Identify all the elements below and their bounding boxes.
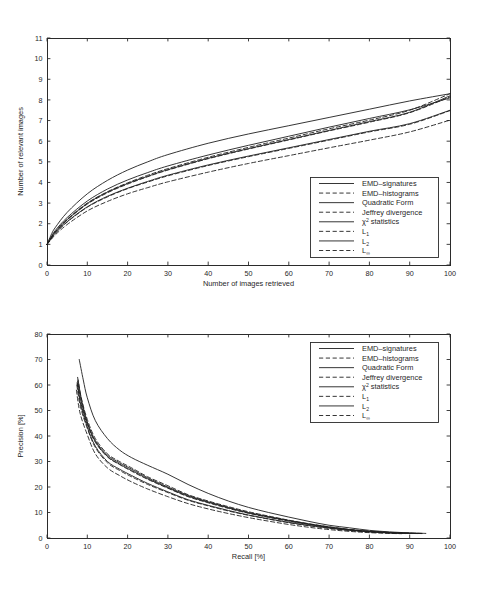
x-tick-label: 40 <box>204 542 212 551</box>
y-tick-label: 30 <box>35 457 43 466</box>
x-tick-label: 90 <box>406 542 414 551</box>
legend-label-1: EMD–signatures <box>362 179 417 188</box>
precision-recall-chart: 010203040506070809010001020304050607080R… <box>16 330 456 561</box>
y-tick-label: 8 <box>39 96 43 105</box>
charts-svg: 010203040506070809010001234567891011Numb… <box>0 0 481 591</box>
y-axis-title: Number of relevant images <box>16 107 25 196</box>
y-tick-label: 20 <box>35 483 43 492</box>
x-tick-label: 0 <box>45 269 49 278</box>
y-tick-label: 40 <box>35 432 43 441</box>
y-tick-label: 50 <box>35 406 43 415</box>
x-tick-label: 60 <box>285 269 293 278</box>
y-tick-label: 2 <box>39 219 43 228</box>
relevant-images-chart: 010203040506070809010001234567891011Numb… <box>16 34 456 288</box>
y-tick-label: 70 <box>35 355 43 364</box>
x-tick-label: 30 <box>164 542 172 551</box>
x-tick-label: 50 <box>245 269 253 278</box>
y-tick-label: 1 <box>39 240 43 249</box>
x-tick-label: 80 <box>365 269 373 278</box>
x-tick-label: 20 <box>124 269 132 278</box>
x-tick-label: 90 <box>406 269 414 278</box>
y-tick-label: 80 <box>35 330 43 339</box>
legend-label-3: Quadratic Form <box>362 363 413 372</box>
y-tick-label: 7 <box>39 116 43 125</box>
x-tick-label: 10 <box>83 542 91 551</box>
x-tick-label: 30 <box>164 269 172 278</box>
x-tick-label: 70 <box>325 269 333 278</box>
x-tick-label: 20 <box>124 542 132 551</box>
figure-container: 010203040506070809010001234567891011Numb… <box>0 0 481 591</box>
legend-label-2: EMD–histograms <box>362 354 419 363</box>
x-tick-label: 50 <box>245 542 253 551</box>
legend-label-4: Jeffrey divergence <box>362 373 422 382</box>
y-axis-title: Precision [%] <box>16 414 25 457</box>
y-tick-label: 0 <box>39 534 43 543</box>
x-tick-label: 100 <box>444 542 456 551</box>
x-axis-title: Number of images retrieved <box>203 279 294 288</box>
x-tick-label: 60 <box>285 542 293 551</box>
y-tick-label: 6 <box>39 137 43 146</box>
y-tick-label: 5 <box>39 157 43 166</box>
x-tick-label: 70 <box>325 542 333 551</box>
y-tick-label: 0 <box>39 261 43 270</box>
legend-label-2: EMD–histograms <box>362 189 419 198</box>
legend-label-3: Quadratic Form <box>362 198 413 207</box>
y-tick-label: 3 <box>39 199 43 208</box>
y-tick-label: 60 <box>35 381 43 390</box>
x-axis-title: Recall [%] <box>232 552 265 561</box>
x-tick-label: 0 <box>45 542 49 551</box>
legend-label-4: Jeffrey divergence <box>362 208 422 217</box>
y-tick-label: 4 <box>39 178 43 187</box>
x-tick-label: 100 <box>444 269 456 278</box>
x-tick-label: 80 <box>365 542 373 551</box>
y-tick-label: 10 <box>35 54 43 63</box>
x-tick-label: 10 <box>83 269 91 278</box>
legend-label-1: EMD–signatures <box>362 344 417 353</box>
y-tick-label: 11 <box>35 34 42 43</box>
x-tick-label: 40 <box>204 269 212 278</box>
y-tick-label: 10 <box>35 508 43 517</box>
y-tick-label: 9 <box>39 75 43 84</box>
